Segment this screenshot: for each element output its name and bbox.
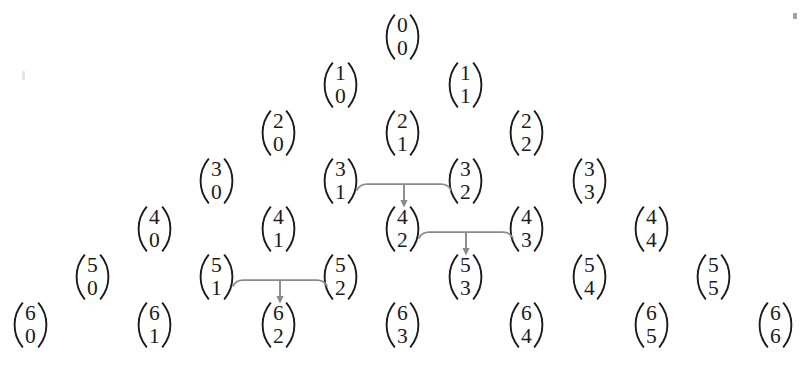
binomial-coefficient-6-5: 65: [634, 302, 669, 348]
binomial-k: 5: [708, 278, 719, 299]
binomial-n: 6: [149, 303, 160, 324]
binomial-coefficient-5-4: 54: [572, 254, 607, 300]
binomial-coefficient-2-1: 21: [385, 110, 420, 156]
right-paren-icon: [409, 14, 420, 60]
right-paren-icon: [347, 62, 358, 108]
binomial-n: 2: [521, 111, 532, 132]
binomial-k: 4: [646, 230, 657, 251]
binomial-n: 5: [584, 255, 595, 276]
left-paren-icon: [448, 254, 459, 300]
binomial-coefficient-3-3: 33: [572, 158, 607, 204]
left-paren-icon: [323, 254, 334, 300]
binomial-n: 4: [397, 207, 408, 228]
binomial-n: 5: [211, 255, 222, 276]
right-paren-icon: [223, 158, 234, 204]
binomial-stack: 53: [459, 255, 472, 298]
binomial-k: 2: [397, 230, 408, 251]
binomial-k: 3: [584, 182, 595, 203]
left-paren-icon: [137, 302, 148, 348]
binomial-n: 1: [460, 63, 471, 84]
binomial-coefficient-4-4: 44: [634, 206, 669, 252]
binomial-k: 0: [211, 182, 222, 203]
left-paren-icon: [385, 14, 396, 60]
binomial-coefficient-6-4: 64: [509, 302, 544, 348]
binomial-coefficient-6-0: 60: [13, 302, 48, 348]
binomial-n: 6: [273, 303, 284, 324]
left-paren-icon: [261, 206, 272, 252]
binomial-stack: 54: [583, 255, 596, 298]
binomial-stack: 52: [334, 255, 347, 298]
binomial-k: 4: [584, 278, 595, 299]
binomial-stack: 44: [645, 207, 658, 250]
binomial-stack: 30: [210, 159, 223, 202]
binomial-coefficient-5-1: 51: [199, 254, 234, 300]
left-paren-icon: [385, 302, 396, 348]
left-paren-icon: [137, 206, 148, 252]
pascal-rule-arrow-1: [418, 230, 514, 256]
left-paren-icon: [509, 302, 520, 348]
right-paren-icon: [285, 206, 296, 252]
right-paren-icon: [658, 302, 669, 348]
pascal-rule-arrow-0: [356, 182, 452, 208]
binomial-coefficient-4-2: 42: [385, 206, 420, 252]
binomial-n: 4: [273, 207, 284, 228]
right-paren-icon: [161, 206, 172, 252]
binomial-stack: 61: [148, 303, 161, 346]
binomial-coefficient-5-2: 52: [323, 254, 358, 300]
binomial-k: 6: [770, 326, 781, 347]
connector-bracket: [357, 184, 451, 190]
binomial-stack: 62: [272, 303, 285, 346]
right-paren-icon: [658, 206, 669, 252]
binomial-k: 1: [211, 278, 222, 299]
left-paren-icon: [509, 206, 520, 252]
right-paren-icon: [161, 302, 172, 348]
left-paren-icon: [572, 158, 583, 204]
left-paren-icon: [696, 254, 707, 300]
binomial-k: 1: [397, 134, 408, 155]
binomial-coefficient-3-0: 30: [199, 158, 234, 204]
binomial-k: 1: [460, 86, 471, 107]
binomial-coefficient-1-1: 11: [448, 62, 483, 108]
binomial-n: 5: [335, 255, 346, 276]
left-paren-icon: [448, 158, 459, 204]
left-paren-icon: [261, 302, 272, 348]
binomial-coefficient-1-0: 10: [323, 62, 358, 108]
binomial-stack: 33: [583, 159, 596, 202]
binomial-n: 6: [25, 303, 36, 324]
left-paren-icon: [572, 254, 583, 300]
binomial-stack: 10: [334, 63, 347, 106]
binomial-coefficient-4-3: 43: [509, 206, 544, 252]
left-paren-icon: [323, 62, 334, 108]
binomial-stack: 43: [520, 207, 533, 250]
right-paren-icon: [409, 302, 420, 348]
binomial-n: 0: [397, 15, 408, 36]
binomial-n: 6: [646, 303, 657, 324]
binomial-coefficient-5-3: 53: [448, 254, 483, 300]
left-paren-icon: [199, 158, 210, 204]
scan-artifact-1: [22, 71, 25, 80]
binomial-stack: 42: [396, 207, 409, 250]
binomial-coefficient-6-6: 66: [758, 302, 793, 348]
binomial-n: 2: [273, 111, 284, 132]
binomial-n: 5: [87, 255, 98, 276]
binomial-n: 3: [335, 159, 346, 180]
binomial-k: 2: [273, 326, 284, 347]
binomial-stack: 63: [396, 303, 409, 346]
binomial-k: 0: [273, 134, 284, 155]
binomial-n: 5: [460, 255, 471, 276]
binomial-k: 4: [521, 326, 532, 347]
right-paren-icon: [347, 158, 358, 204]
right-paren-icon: [533, 206, 544, 252]
binomial-stack: 20: [272, 111, 285, 154]
binomial-stack: 22: [520, 111, 533, 154]
binomial-k: 3: [397, 326, 408, 347]
pascal-rule-arrow-2: [232, 278, 328, 304]
binomial-k: 3: [460, 278, 471, 299]
binomial-k: 0: [87, 278, 98, 299]
binomial-stack: 21: [396, 111, 409, 154]
binomial-coefficient-5-5: 55: [696, 254, 731, 300]
binomial-k: 0: [149, 230, 160, 251]
binomial-stack: 60: [24, 303, 37, 346]
right-paren-icon: [472, 62, 483, 108]
binomial-coefficient-4-1: 41: [261, 206, 296, 252]
